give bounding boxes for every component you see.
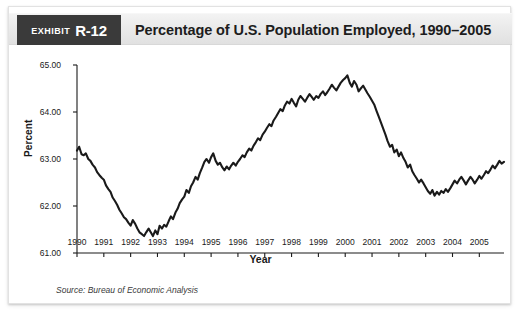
line-chart-plot [9, 45, 512, 260]
x-axis-title: Year [9, 253, 512, 265]
x-axis-tick-label: 1996 [228, 237, 247, 247]
x-axis-tick-label: 1991 [94, 237, 113, 247]
x-axis-tick-label: 2003 [416, 237, 435, 247]
x-axis-tick-label: 2005 [470, 237, 489, 247]
chart-area: Percent 65.0064.0063.0062.0061.00 199019… [9, 45, 512, 305]
exhibit-badge-word: Exhibit [31, 27, 70, 36]
x-axis-tick-label: 1998 [282, 237, 301, 247]
exhibit-badge-number: R-12 [75, 23, 107, 38]
x-axis-tick-label: 2004 [443, 237, 462, 247]
exhibit-badge: Exhibit R-12 [17, 15, 121, 45]
x-axis-tick-label: 1995 [202, 237, 221, 247]
x-axis-tick-label: 2001 [363, 237, 382, 247]
x-axis-tick-label: 1992 [121, 237, 140, 247]
x-axis-tick-label: 1997 [255, 237, 274, 247]
page-title: Percentage of U.S. Population Employed, … [135, 14, 491, 46]
x-axis-tick-label: 1990 [68, 237, 87, 247]
x-axis-tick-label: 1993 [148, 237, 167, 247]
x-axis-tick-label: 2002 [389, 237, 408, 247]
exhibit-header: Exhibit R-12 Percentage of U.S. Populati… [9, 13, 512, 45]
x-axis-tick-label: 1999 [309, 237, 328, 247]
exhibit-panel: Exhibit R-12 Percentage of U.S. Populati… [8, 6, 511, 304]
x-axis-tick-labels: 1990199119921993199419951996199719981999… [9, 237, 512, 253]
source-note: Source: Bureau of Economic Analysis [56, 285, 198, 295]
x-axis-tick-label: 2000 [336, 237, 355, 247]
x-axis-tick-label: 1994 [175, 237, 194, 247]
